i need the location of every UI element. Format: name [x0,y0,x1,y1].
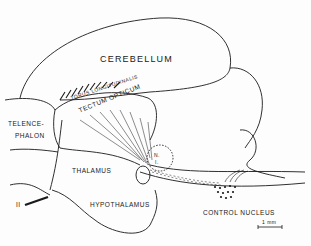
scale-bar [258,225,282,229]
posterior-outline [230,68,262,148]
control-nucleus-dots [214,185,236,199]
label-scale: 1 mm [262,220,277,225]
label-cerebellum: CEREBELLUM [100,55,173,64]
label-optic-nerve-ii: II [16,202,21,209]
brainstem-outline [140,172,305,186]
label-telencephalon-line1: TELENCE- [8,121,44,128]
optic-nerve [25,197,48,205]
label-control-nucleus: CONTROL NUCLEUS [203,210,275,217]
label-hypothalamus: HYPOTHALAMUS [90,202,150,209]
hypothalamus-outline [52,190,157,233]
label-thalamus: THALAMUS [72,168,111,175]
label-ni-line2: I. [155,160,159,165]
label-ni-line1: N. [154,153,160,158]
brain-diagram: CEREBELLUM TORUS LONGITUDINALIS TECTUM O… [0,0,311,246]
label-telencephalon-line2: PHALON [15,133,45,140]
